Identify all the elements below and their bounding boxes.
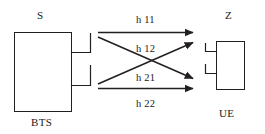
mimo-channel-diagram: S BTS Z UE h 11 h 12 h 21 h 22 xyxy=(0,0,265,134)
channel-label-h21: h 21 xyxy=(136,73,155,84)
transmit-signal-label: S xyxy=(37,10,44,21)
bts-antenna-1 xyxy=(72,34,91,53)
bts-antenna-2 xyxy=(72,66,91,86)
bts-box xyxy=(15,33,72,112)
channel-label-h11: h 11 xyxy=(136,15,155,26)
ue-antenna-1 xyxy=(206,44,217,52)
bts-label: BTS xyxy=(31,117,52,128)
ue-label: UE xyxy=(219,108,234,119)
ue-box xyxy=(217,42,245,90)
receive-signal-label: Z xyxy=(225,10,232,21)
channel-label-h12: h 12 xyxy=(136,44,155,55)
channel-label-h22: h 22 xyxy=(136,99,155,110)
ue-antenna-2 xyxy=(206,65,217,74)
